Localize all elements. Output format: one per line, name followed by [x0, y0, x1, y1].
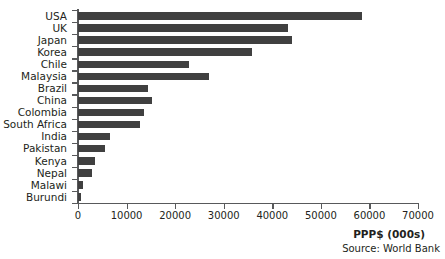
bar	[78, 73, 209, 81]
y-axis-tick	[72, 22, 77, 23]
category-label: Kenya	[0, 155, 72, 167]
y-axis-tick	[72, 107, 77, 108]
bar	[78, 36, 292, 44]
bar-row	[78, 34, 418, 46]
bar-row	[78, 10, 418, 22]
category-axis-labels: USAUKJapanKoreaChileMalaysiaBrazilChinaC…	[0, 10, 72, 203]
x-axis-title: PPP$ (000s)	[353, 228, 425, 240]
x-axis-tick-label: 10000	[111, 211, 143, 221]
y-axis-tick	[72, 179, 77, 180]
bar-row	[78, 179, 418, 191]
x-axis-tick-label: 20000	[159, 211, 191, 221]
category-label: Pakistan	[0, 143, 72, 155]
bar	[78, 97, 152, 105]
bar	[78, 145, 105, 153]
category-label: Korea	[0, 46, 72, 58]
category-label: South Africa	[0, 119, 72, 131]
bar	[78, 12, 362, 20]
y-axis-tick	[72, 191, 77, 192]
category-label: China	[0, 94, 72, 106]
x-axis-tick-label: 40000	[256, 211, 288, 221]
bar-row	[78, 46, 418, 58]
bar	[78, 48, 252, 56]
bar	[78, 157, 95, 165]
bar-row	[78, 191, 418, 203]
category-label: Malaysia	[0, 70, 72, 82]
bar-chart: USAUKJapanKoreaChileMalaysiaBrazilChinaC…	[0, 0, 445, 259]
y-axis-tick	[72, 203, 77, 204]
bar-row	[78, 82, 418, 94]
category-label: Japan	[0, 34, 72, 46]
bar	[78, 121, 140, 129]
bar-row	[78, 70, 418, 82]
bar	[78, 85, 148, 93]
plot-area	[78, 10, 418, 203]
y-axis-tick	[72, 82, 77, 83]
y-axis-tick	[72, 131, 77, 132]
y-axis-tick	[72, 167, 77, 168]
category-label: Chile	[0, 58, 72, 70]
category-label: UK	[0, 22, 72, 34]
bar	[78, 181, 83, 189]
x-axis-tick	[418, 204, 419, 209]
category-label: USA	[0, 10, 72, 22]
x-axis-tick	[127, 204, 128, 209]
y-axis-tick	[72, 70, 77, 71]
category-label: Malawi	[0, 179, 72, 191]
y-axis-tick	[72, 58, 77, 59]
x-axis-tick	[369, 204, 370, 209]
bar	[78, 24, 288, 32]
bar-row	[78, 167, 418, 179]
y-axis-tick	[72, 155, 77, 156]
y-axis-tick	[72, 94, 77, 95]
category-label: India	[0, 131, 72, 143]
x-axis-tick-label: 0	[75, 211, 81, 221]
x-axis-tick	[78, 204, 79, 209]
category-label: Burundi	[0, 191, 72, 203]
y-axis-tick	[72, 10, 77, 11]
bar-row	[78, 155, 418, 167]
bar-row	[78, 131, 418, 143]
bar-series	[78, 10, 418, 203]
source-note: Source: World Bank	[342, 243, 440, 254]
x-axis-tick-label: 30000	[208, 211, 240, 221]
bar-row	[78, 94, 418, 106]
bar-row	[78, 107, 418, 119]
category-label: Nepal	[0, 167, 72, 179]
x-axis-tick	[321, 204, 322, 209]
y-axis-tick	[72, 46, 77, 47]
y-axis-tick	[72, 34, 77, 35]
category-label: Brazil	[0, 82, 72, 94]
bar-row	[78, 58, 418, 70]
x-axis-tick-label: 50000	[305, 211, 337, 221]
bar-row	[78, 119, 418, 131]
bar	[78, 61, 189, 69]
x-axis-tick	[175, 204, 176, 209]
y-axis-tick	[72, 119, 77, 120]
x-axis-tick-label: 60000	[354, 211, 386, 221]
y-axis-tick	[72, 143, 77, 144]
x-axis-tick-label: 70000	[402, 211, 434, 221]
bar-row	[78, 22, 418, 34]
bar	[78, 109, 144, 117]
x-axis-tick	[224, 204, 225, 209]
bar	[78, 193, 81, 201]
bar	[78, 169, 92, 177]
category-label: Colombia	[0, 107, 72, 119]
bar-row	[78, 143, 418, 155]
bar	[78, 133, 110, 141]
x-axis-tick	[272, 204, 273, 209]
